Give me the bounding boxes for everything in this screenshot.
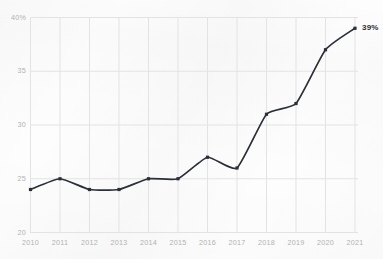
data-point-marker <box>88 188 91 191</box>
y-axis-tick-label: 20 <box>0 228 26 237</box>
y-axis-tick-label: 25 <box>0 174 26 183</box>
x-axis-tick-label: 2021 <box>338 238 372 247</box>
data-point-marker <box>58 177 61 180</box>
series-line <box>31 28 356 190</box>
data-point-markers <box>29 27 357 191</box>
y-axis-tick-label: 40% <box>0 13 26 22</box>
data-point-marker <box>176 177 179 180</box>
data-point-marker <box>265 113 268 116</box>
y-gridlines <box>31 18 359 233</box>
y-axis-tick-label: 30 <box>0 120 26 129</box>
data-point-marker <box>294 102 297 105</box>
plot-area <box>0 0 383 259</box>
data-point-marker <box>324 48 327 51</box>
line-chart: 40%35302520 2010201120122013201420152016… <box>0 0 383 259</box>
data-point-marker <box>29 188 32 191</box>
endpoint-value-annotation: 39% <box>362 23 379 32</box>
data-point-marker <box>117 188 120 191</box>
data-point-marker <box>353 27 356 30</box>
data-point-marker <box>235 166 238 169</box>
y-axis-tick-label: 35 <box>0 66 26 75</box>
data-point-marker <box>147 177 150 180</box>
data-point-marker <box>206 156 209 159</box>
